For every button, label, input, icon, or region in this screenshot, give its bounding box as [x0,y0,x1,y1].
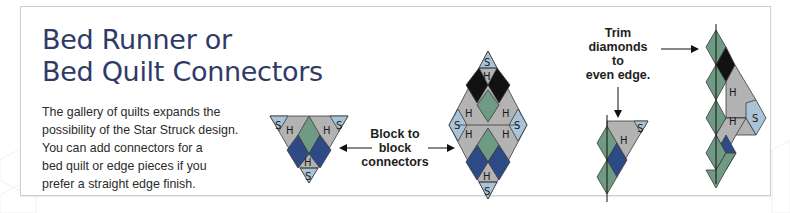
quilt-diagrams: S H H S H S S H H H S S H H H S [0,0,790,213]
cell-letter-h: H [502,129,510,140]
cell-letter-h: H [465,129,473,140]
cell-letter-h: H [304,157,312,168]
cell-letter-h: H [620,135,628,146]
cell-letter-h: H [502,108,510,119]
cell-letter-h: H [465,108,473,119]
cell-letter-s: S [336,120,342,131]
cell-letter-s: S [275,120,281,131]
cell-letter-h: H [483,71,491,82]
cell-letter-s: S [637,123,643,134]
cell-letter-s: S [484,186,490,197]
cell-letter-s: S [484,57,490,68]
cell-letter-h: H [729,116,737,127]
tall-edge-piece-diagram [706,24,766,188]
cell-letter-h: H [729,87,737,98]
cell-letter-s: S [305,171,311,182]
cell-letter-s: S [454,120,460,131]
cell-letter-s: S [514,120,520,131]
cell-letter-h: H [483,171,491,182]
cell-letter-s: S [752,113,758,124]
cell-letter-h: H [323,125,331,136]
cell-letter-h: H [286,125,294,136]
